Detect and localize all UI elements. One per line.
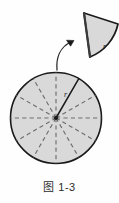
circle-center-point (54, 116, 58, 120)
motion-arrow-shaft (57, 42, 71, 70)
geometry-figure: r r (0, 0, 119, 203)
cut-out-sector-group (84, 13, 118, 57)
figure-caption: 图 1-3 (0, 178, 119, 194)
curved-motion-arrow (57, 40, 74, 70)
figure-container: r r 图 1-3 (0, 0, 119, 203)
